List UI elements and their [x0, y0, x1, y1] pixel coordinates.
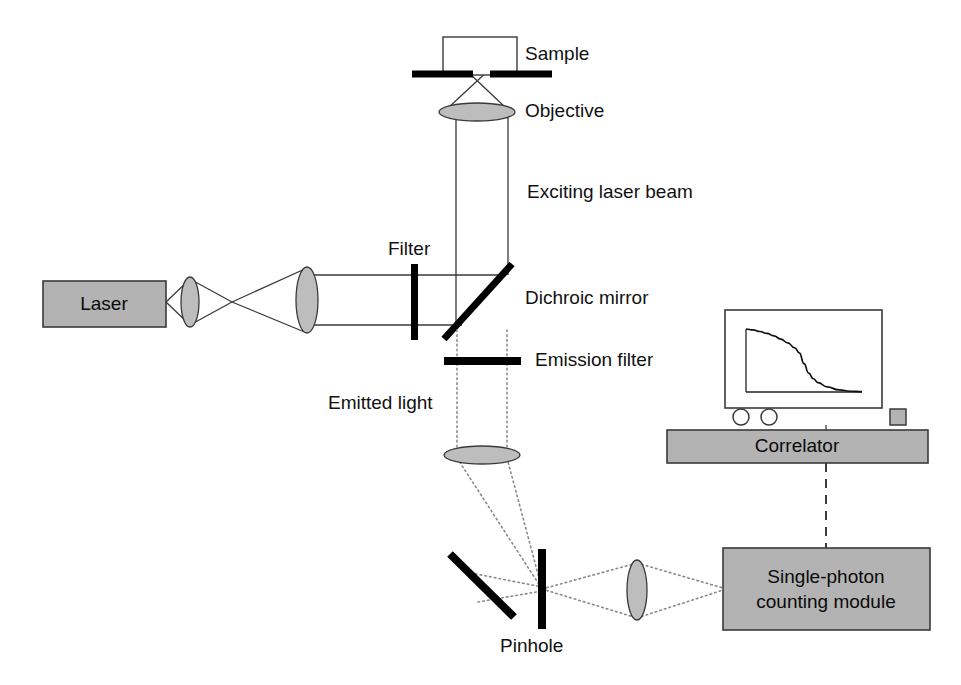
detector-box-label-line1: Single-photon	[767, 566, 884, 587]
detector-box-label-line2: counting module	[756, 591, 895, 612]
emission-filter-label: Emission filter	[535, 349, 654, 370]
sample-label: Sample	[525, 43, 589, 64]
lens-2	[296, 267, 318, 333]
dichroic-mirror-label: Dichroic mirror	[525, 287, 649, 308]
fold-mirror-bar	[450, 554, 514, 617]
optical-setup-diagram: Laser Correlator Single-photon counting …	[0, 0, 961, 685]
pinhole-label: Pinhole	[500, 635, 563, 656]
lens-1	[181, 277, 199, 327]
objective-label: Objective	[525, 100, 604, 121]
monitor-screen	[725, 310, 882, 408]
pinhole-bar	[538, 549, 546, 629]
emission-converge-right	[507, 458, 542, 589]
emission-filter-bar	[444, 357, 521, 365]
detector-box	[723, 548, 930, 630]
emission-beam-path	[457, 330, 723, 618]
excitation-filter-bar	[411, 264, 418, 340]
emitted-light-label: Emitted light	[328, 392, 433, 413]
collection-lens	[627, 560, 647, 620]
monitor-knob-1[interactable]	[733, 409, 749, 425]
correlator-box-label: Correlator	[755, 435, 840, 456]
diagram-canvas: Laser Correlator Single-photon counting …	[0, 0, 961, 685]
emission-pinhole-to-lens-upper	[542, 563, 637, 589]
monitor-knob-2[interactable]	[761, 409, 777, 425]
laser-box-label: Laser	[80, 293, 128, 314]
exciting-laser-beam-label: Exciting laser beam	[527, 181, 693, 202]
tube-lens	[444, 446, 520, 464]
filter-label: Filter	[388, 238, 431, 259]
excitation-beam-path	[166, 55, 508, 333]
monitor-indicator	[890, 409, 906, 425]
emission-lens-to-detector-lower	[637, 590, 723, 618]
emission-lens-to-detector-upper	[637, 563, 723, 588]
emission-pinhole-to-lens-lower	[542, 589, 637, 618]
sample-chamber	[443, 37, 517, 75]
objective-lens	[439, 103, 515, 121]
